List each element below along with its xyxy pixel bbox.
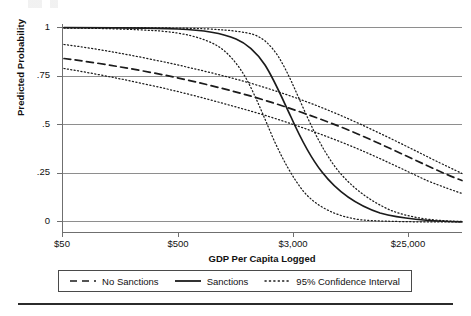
y-axis-title: Predicted Probability — [15, 0, 26, 158]
dashed-line-icon — [70, 277, 96, 285]
plot-area: 1 .75 .5 .25 0 $50 $500 $3,000 $25,000 P… — [0, 0, 471, 245]
x-axis-title: GDP Per Capita Logged — [62, 253, 462, 264]
solid-line-icon — [175, 277, 201, 285]
bottom-divider — [18, 303, 453, 305]
y-tick-label-0: 0 — [8, 216, 50, 226]
legend-label-confidence-interval: 95% Confidence Interval — [296, 276, 400, 287]
x-tick-label-500: $500 — [138, 239, 218, 249]
y-axis — [57, 24, 63, 232]
legend-label-sanctions: Sanctions — [207, 276, 249, 287]
gridlines — [62, 28, 462, 222]
x-tick-label-3000: $3,000 — [253, 239, 333, 249]
x-tick-label-50: $50 — [22, 239, 102, 249]
x-tick-label-25000: $25,000 — [368, 239, 448, 249]
legend-item-no-sanctions: No Sanctions — [70, 276, 159, 287]
y-tick-label-025: .25 — [8, 167, 50, 177]
curve-nosanctions-upper-ci — [64, 45, 462, 174]
figure-predicted-probability: 1 .75 .5 .25 0 $50 $500 $3,000 $25,000 P… — [0, 0, 471, 316]
x-axis — [62, 232, 462, 237]
legend: No Sanctions Sanctions 95% Confidence In… — [58, 270, 412, 292]
legend-label-no-sanctions: No Sanctions — [102, 276, 159, 287]
legend-item-confidence-interval: 95% Confidence Interval — [264, 276, 400, 287]
chart-canvas — [0, 0, 471, 245]
curve-nosanctions — [64, 59, 462, 181]
dotted-line-icon — [264, 277, 290, 285]
legend-item-sanctions: Sanctions — [175, 276, 249, 287]
